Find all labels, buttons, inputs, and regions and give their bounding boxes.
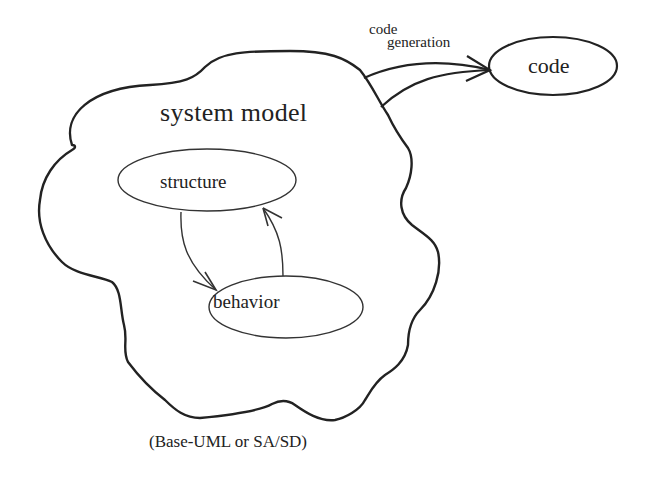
- code-generation-arrow-lower: [381, 70, 490, 107]
- code-label: code: [528, 55, 570, 77]
- behavior-label: behavior: [213, 292, 279, 311]
- structure-to-behavior-arrow: [181, 212, 216, 290]
- edge-label-line2: generation: [387, 35, 450, 50]
- system-model-label: system model: [160, 100, 307, 126]
- caption: (Base-UML or SA/SD): [149, 433, 307, 450]
- structure-label: structure: [160, 172, 226, 191]
